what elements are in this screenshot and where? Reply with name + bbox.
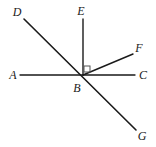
point-label-a: A <box>9 69 16 81</box>
point-label-e: E <box>77 5 84 17</box>
point-label-b: B <box>73 82 80 94</box>
point-label-f: F <box>135 42 142 54</box>
diagram-canvas <box>0 0 156 147</box>
point-label-c: C <box>139 69 147 81</box>
point-label-d: D <box>13 6 22 18</box>
geometry-diagram: A B C D E F G <box>0 0 156 147</box>
point-label-g: G <box>138 130 147 142</box>
right-angle-square-icon <box>84 66 90 72</box>
